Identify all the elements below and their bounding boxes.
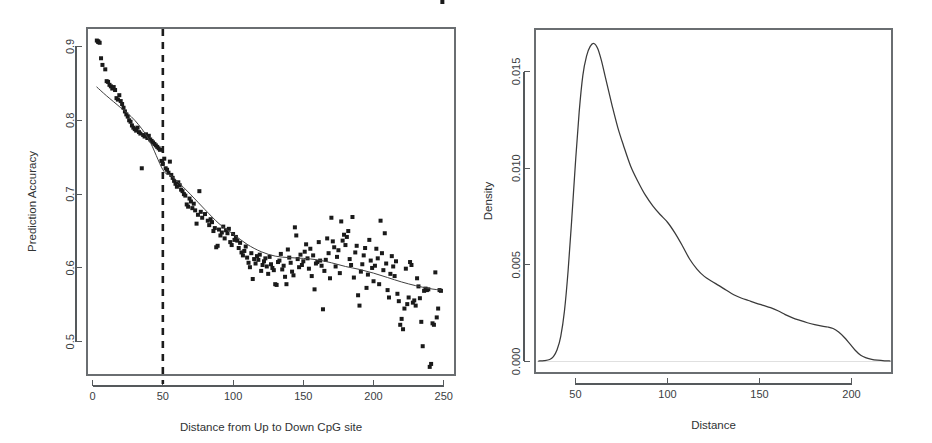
data-point (435, 315, 439, 319)
scatter-panel: 0.50.60.70.80.9 050100150200250 Distance… (0, 0, 466, 443)
data-point (415, 276, 419, 280)
scatter-data-points (95, 0, 445, 369)
scatter-trend-line (97, 87, 441, 290)
data-point (158, 148, 162, 152)
data-point (254, 262, 258, 266)
data-point (237, 246, 241, 250)
data-point (397, 299, 401, 303)
data-point (352, 276, 356, 280)
data-point (313, 287, 317, 291)
data-point (272, 268, 276, 272)
data-point (242, 249, 246, 253)
scatter-x-axis-ticks: 050100150200250 (90, 380, 453, 402)
data-point (317, 240, 321, 244)
data-point (168, 160, 172, 164)
y-tick-label: 0.005 (510, 251, 522, 279)
data-point (265, 264, 269, 268)
data-point (120, 102, 124, 106)
data-point (402, 307, 406, 311)
y-tick-label: 0.010 (510, 154, 522, 182)
y-tick-label: 0.6 (64, 260, 76, 275)
data-point (383, 231, 387, 235)
data-point (195, 222, 199, 226)
data-point (258, 253, 262, 257)
data-point (356, 293, 360, 297)
data-point (336, 248, 340, 252)
data-point (289, 261, 293, 265)
data-point (327, 251, 331, 255)
data-point (259, 269, 263, 273)
data-point (345, 235, 349, 239)
data-point (320, 264, 324, 268)
data-point (355, 244, 359, 248)
data-point (303, 250, 307, 254)
data-point (220, 231, 224, 235)
data-point (275, 283, 279, 287)
density-plot-frame (535, 29, 892, 373)
data-point (210, 220, 214, 224)
data-point (380, 251, 384, 255)
density-curve-path (539, 43, 890, 361)
data-point (362, 253, 366, 257)
data-point (244, 245, 248, 249)
data-point (386, 288, 390, 292)
data-point (405, 302, 409, 306)
data-point (203, 212, 207, 216)
x-tick-label: 150 (294, 390, 312, 402)
x-tick-label: 100 (658, 388, 676, 400)
data-point (279, 252, 283, 256)
data-point (322, 269, 326, 273)
data-point (284, 282, 288, 286)
data-point (401, 327, 405, 331)
x-tick-label: 150 (750, 388, 768, 400)
data-point (394, 259, 398, 263)
data-point (298, 253, 302, 257)
x-tick-label: 200 (842, 388, 860, 400)
density-plot-svg: 0.0000.0050.0100.015 50100150200 Distanc… (466, 0, 932, 443)
data-point (404, 267, 408, 271)
data-point (379, 219, 383, 223)
data-point (349, 263, 353, 267)
data-point (311, 253, 315, 257)
data-point (266, 272, 270, 276)
x-tick-label: 50 (157, 390, 169, 402)
data-point (238, 241, 242, 245)
data-point (429, 362, 433, 366)
data-point (433, 270, 437, 274)
scatter-y-axis-label: Prediction Accuracy (26, 151, 38, 252)
plot-frame-rect (535, 29, 892, 373)
data-point (328, 276, 332, 280)
data-point (400, 317, 404, 321)
data-point (241, 253, 245, 257)
data-point (338, 271, 342, 275)
data-point (398, 323, 402, 327)
data-point (293, 225, 297, 229)
data-point (335, 255, 339, 259)
data-point (421, 344, 425, 348)
data-point (334, 264, 338, 268)
data-point (282, 264, 286, 268)
data-point (369, 259, 373, 263)
y-tick-label: 0.7 (64, 186, 76, 201)
data-point (251, 277, 255, 281)
y-tick-label: 0.5 (64, 334, 76, 349)
density-panel: 0.0000.0050.0100.015 50100150200 Distanc… (466, 0, 932, 443)
data-point (300, 263, 304, 267)
data-point (365, 286, 369, 290)
data-point (407, 295, 411, 299)
data-point (269, 262, 273, 266)
data-point (245, 256, 249, 260)
data-point (409, 263, 413, 267)
data-point (332, 245, 336, 249)
data-point (414, 304, 418, 308)
data-point (283, 275, 287, 279)
data-point (393, 274, 397, 278)
data-point (395, 292, 399, 296)
data-point (412, 298, 416, 302)
data-point (248, 265, 252, 269)
data-point (304, 242, 308, 246)
density-y-axis-label: Density (482, 182, 494, 221)
x-tick-label: 250 (435, 390, 453, 402)
data-point (294, 233, 298, 237)
data-point (100, 63, 104, 67)
